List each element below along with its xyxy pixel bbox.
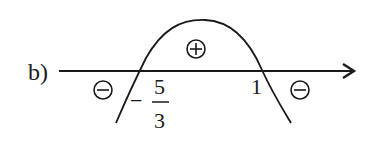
- minus-sign-icon: [291, 81, 309, 99]
- x-axis: [59, 64, 354, 78]
- root-denominator: 3: [154, 108, 165, 133]
- minus-sign-icon: [94, 81, 112, 99]
- sign-chart-diagram: b) − 5 3 1: [0, 0, 374, 148]
- plus-sign-icon: [187, 40, 205, 58]
- root-label-neg-five-thirds: − 5 3: [130, 74, 169, 133]
- root-sign: −: [130, 88, 142, 113]
- root-label-one: 1: [251, 74, 262, 99]
- part-label: b): [28, 59, 48, 85]
- root-numerator: 5: [154, 74, 165, 99]
